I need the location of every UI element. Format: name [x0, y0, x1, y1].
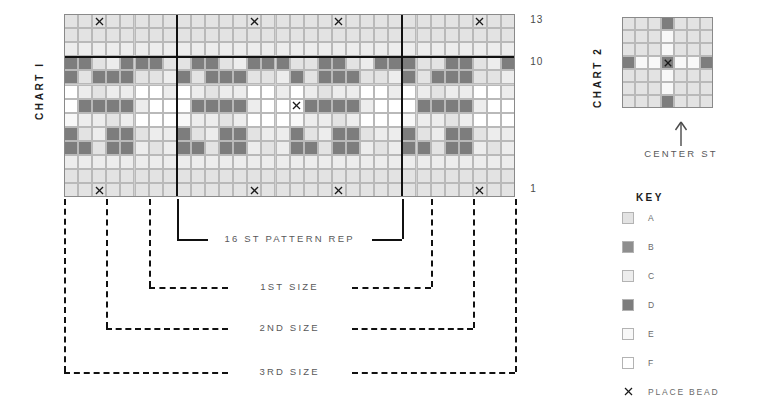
color-swatch-icon: [622, 328, 634, 340]
bracket-leg-left: [149, 199, 151, 287]
bracket-leg-left: [106, 199, 108, 328]
grid-border: [64, 14, 515, 197]
chart2-title: CHART 2: [592, 46, 603, 108]
key-item[interactable]: B: [622, 232, 762, 261]
color-swatch-icon: [622, 299, 634, 311]
center-stitch-label: CENTER ST: [622, 148, 740, 159]
key-item[interactable]: PLACE BEAD: [622, 377, 762, 406]
grid-border: [622, 17, 713, 108]
bracket-rule-left: [149, 287, 228, 289]
bracket-rule-right: [352, 328, 473, 330]
key-rows: ABCDEFPLACE BEAD: [622, 203, 762, 406]
bracket-label: 3RD SIZE: [259, 366, 319, 377]
bracket-rule-left: [106, 328, 227, 330]
bracket-rule-right: [352, 287, 431, 289]
color-swatch-icon: [622, 212, 634, 224]
key-item-label: D: [648, 300, 656, 310]
key-item-label: A: [648, 213, 655, 223]
bracket-leg-right: [473, 199, 475, 328]
bracket-rule-left: [64, 372, 228, 374]
bracket-rule-right: [352, 372, 516, 374]
chart1-grid[interactable]: [64, 14, 515, 197]
key-item[interactable]: D: [622, 290, 762, 319]
key-item-label: C: [648, 271, 656, 281]
key-legend: KEY ABCDEFPLACE BEAD: [622, 192, 762, 406]
bracket-leg-left: [64, 199, 66, 372]
bracket-leg-right: [402, 199, 404, 239]
row-number: 10: [530, 56, 543, 67]
key-title: KEY: [636, 192, 762, 203]
bracket-label: 1ST SIZE: [260, 281, 319, 292]
bracket-rule-right: [372, 239, 403, 241]
bracket-leg-right: [515, 199, 517, 372]
row-number: 13: [530, 14, 543, 25]
color-swatch-icon: [622, 241, 634, 253]
bracket-rule-left: [177, 239, 208, 241]
chart2: [622, 17, 713, 108]
chart2-grid[interactable]: [622, 17, 713, 108]
center-stitch-arrow-icon: [622, 120, 740, 148]
key-item[interactable]: C: [622, 261, 762, 290]
chart1: [64, 14, 515, 197]
key-item[interactable]: F: [622, 348, 762, 377]
key-item[interactable]: E: [622, 319, 762, 348]
key-item-label: B: [648, 242, 655, 252]
key-item-label: E: [648, 329, 655, 339]
place-bead-icon: [622, 386, 634, 398]
row-number: 1: [530, 183, 537, 194]
center-stitch-callout: CENTER ST: [622, 120, 740, 159]
bracket-label: 2ND SIZE: [259, 322, 319, 333]
chart1-title: CHART I: [34, 61, 45, 120]
key-item[interactable]: A: [622, 203, 762, 232]
bracket-leg-left: [177, 199, 179, 239]
bracket-label: 16 ST PATTERN REP: [224, 233, 354, 244]
color-swatch-icon: [622, 357, 634, 369]
key-item-label: F: [648, 358, 655, 368]
color-swatch-icon: [622, 270, 634, 282]
key-item-label: PLACE BEAD: [648, 387, 719, 397]
bracket-leg-right: [431, 199, 433, 287]
